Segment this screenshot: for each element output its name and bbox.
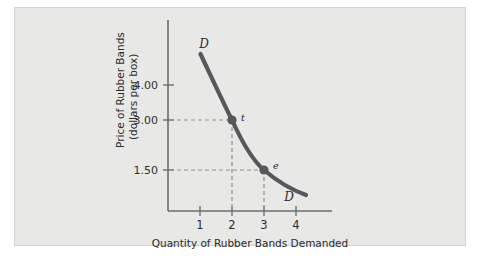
data-point-e bbox=[259, 165, 268, 174]
y-axis-title-line1: Price of Rubber Bands bbox=[114, 32, 126, 148]
y-axis-title-line2: (dollars per box) bbox=[127, 54, 139, 140]
x-tick-label-3: 3 bbox=[260, 218, 267, 232]
x-tick-label-4: 4 bbox=[292, 218, 299, 232]
data-point-label-e: e bbox=[273, 160, 279, 171]
x-tick-label-1: 1 bbox=[196, 218, 203, 232]
data-point-label-t: t bbox=[241, 112, 245, 123]
demand-curve-line bbox=[201, 54, 307, 195]
x-tick-label-2: 2 bbox=[228, 218, 235, 232]
figure-container: 4.00 3.00 1.50 1 2 3 4 D D t e Price of … bbox=[0, 0, 487, 264]
curve-label-bottom: D bbox=[283, 190, 294, 204]
data-point-t bbox=[227, 115, 236, 124]
demand-curve-chart: 4.00 3.00 1.50 1 2 3 4 D D t e Price of … bbox=[0, 0, 487, 264]
curve-label-top: D bbox=[198, 37, 209, 51]
x-axis-title: Quantity of Rubber Bands Demanded bbox=[152, 237, 349, 249]
y-tick-label-150: 1.50 bbox=[134, 164, 159, 177]
